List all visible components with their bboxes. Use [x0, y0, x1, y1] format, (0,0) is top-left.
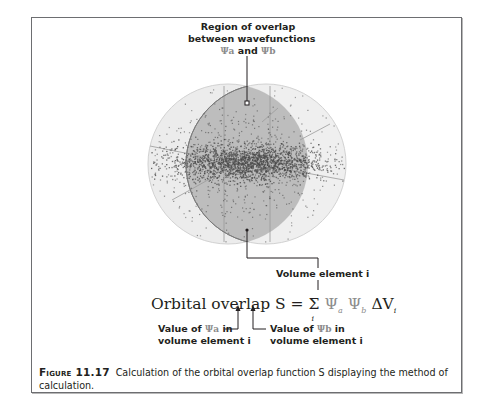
psi-b-annotation: Value of Ψb in volume element i	[270, 323, 363, 347]
psi-a-annotation: Value of Ψa in volume element i	[158, 323, 251, 347]
volume-element-label: Volume element i	[276, 268, 369, 280]
overlap-region-label: Region of overlap between wavefunctions …	[188, 21, 308, 57]
figure-caption: Figure 11.17Calculation of the orbital o…	[39, 366, 449, 392]
figure-number: Figure 11.17	[39, 366, 110, 378]
overlap-formula: Orbital overlap S = Σi Ψa Ψb ΔVi	[151, 294, 396, 321]
